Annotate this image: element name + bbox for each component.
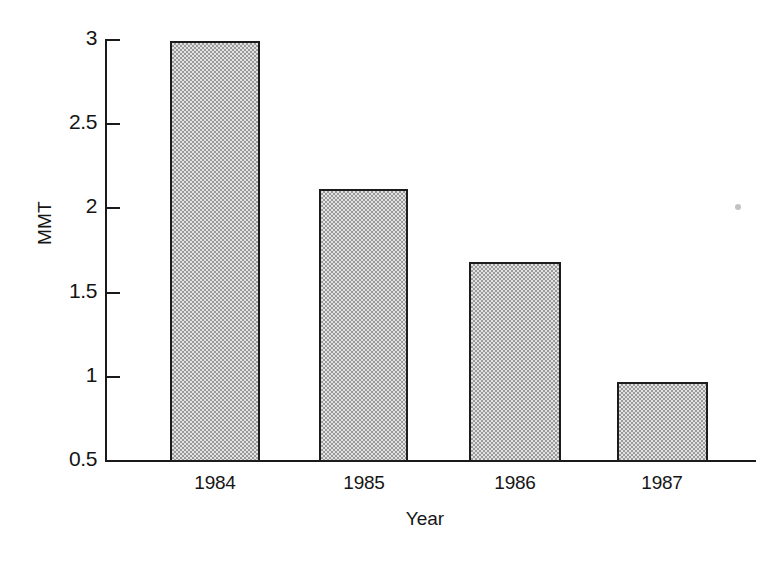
y-tick-label-2-5: 2.5 xyxy=(33,110,97,134)
y-tick-mark-2-5 xyxy=(107,123,120,125)
bar-1984 xyxy=(170,41,260,462)
y-tick-mark-3 xyxy=(107,39,120,41)
bar-chart-figure: 3 2.5 2 1.5 1 0.5 1984 1985 1986 1987 Ye… xyxy=(0,0,773,562)
x-tick-label-1984: 1984 xyxy=(145,472,285,494)
y-tick-label-0-5: 0.5 xyxy=(33,447,97,471)
bar-1987 xyxy=(617,382,708,462)
x-tick-label-1985: 1985 xyxy=(294,472,434,494)
y-tick-label-1: 1 xyxy=(33,363,97,387)
x-axis-title: Year xyxy=(355,508,495,530)
y-tick-mark-0-5 xyxy=(107,460,120,462)
y-tick-mark-1-5 xyxy=(107,292,120,294)
scan-artifact-dot xyxy=(735,204,741,210)
x-tick-label-1987: 1987 xyxy=(592,472,732,494)
bar-1985 xyxy=(319,189,408,462)
y-tick-label-3: 3 xyxy=(33,26,97,50)
y-axis-line xyxy=(105,39,107,462)
y-tick-label-1-5: 1.5 xyxy=(33,279,97,303)
bar-1986 xyxy=(469,262,561,462)
x-tick-label-1986: 1986 xyxy=(445,472,585,494)
y-axis-title: MMT xyxy=(34,188,56,258)
y-tick-mark-2 xyxy=(107,207,120,209)
y-tick-mark-1 xyxy=(107,376,120,378)
